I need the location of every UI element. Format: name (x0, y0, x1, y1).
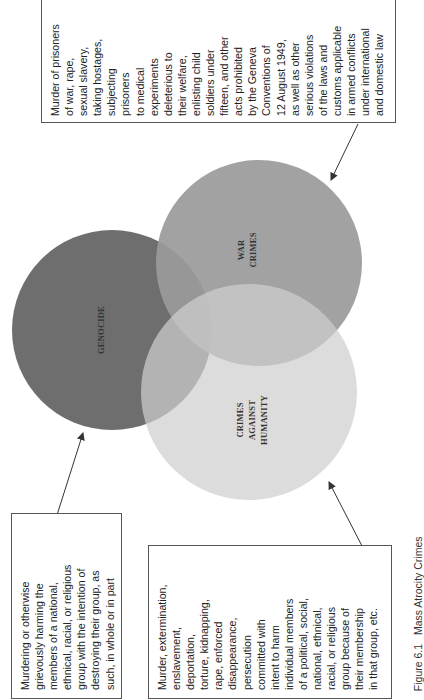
svg-text:AGAINST: AGAINST (247, 400, 257, 440)
war-crimes-description-box: Murder of prisoners of war, rape, sexual… (41, 0, 396, 123)
genocide-arrow (57, 433, 83, 515)
genocide-label: GENOCIDE (96, 306, 106, 354)
crimes-against-humanity-description-box: Murder, extermination, enslavement, depo… (148, 545, 392, 699)
crimes-against-humanity-label: CRIMES AGAINST HUMANITY (235, 395, 269, 445)
svg-text:CRIMES: CRIMES (235, 402, 245, 437)
crimes-against-humanity-description: Murder, extermination, enslavement, depo… (149, 546, 393, 700)
svg-text:GENOCIDE: GENOCIDE (96, 306, 106, 354)
crimes-against-humanity-circle (141, 284, 357, 500)
genocide-description: Murdering or otherwise grievously harmin… (12, 514, 123, 700)
svg-text:CRIMES: CRIMES (248, 232, 258, 267)
figure-number: Figure 6.1 (412, 644, 424, 691)
genocide-description-box: Murdering or otherwise grievously harmin… (11, 513, 122, 699)
svg-text:WAR: WAR (236, 239, 246, 260)
figure-caption: Figure 6.1 Mass Atrocity Crimes (400, 537, 424, 698)
figure-title: Mass Atrocity Crimes (412, 537, 424, 636)
crimes-against-humanity-arrow (329, 482, 362, 546)
svg-text:HUMANITY: HUMANITY (259, 395, 269, 445)
war-crimes-description: Murder of prisoners of war, rape, sexual… (42, 0, 397, 124)
caption-spacer (412, 635, 424, 644)
war-crimes-arrow (331, 124, 358, 180)
